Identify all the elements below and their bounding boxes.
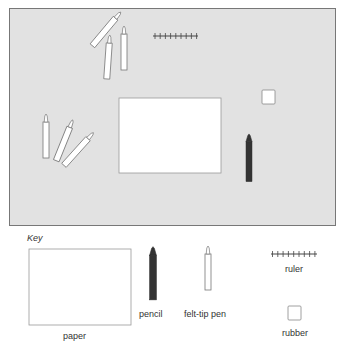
key-pencil-icon bbox=[150, 247, 157, 300]
rubber-icon bbox=[262, 90, 275, 104]
key-label-rubber: rubber bbox=[282, 328, 308, 338]
paper-icon bbox=[119, 98, 221, 173]
ruler-icon bbox=[153, 33, 198, 39]
felt-tip-pen-icon bbox=[104, 35, 113, 79]
key-label-ruler: ruler bbox=[285, 264, 303, 274]
key-label-paper: paper bbox=[63, 331, 86, 341]
key-rubber-icon bbox=[288, 306, 301, 320]
key-label-felt-tip-pen: felt-tip pen bbox=[184, 309, 226, 319]
key-felt-tip-pen-icon bbox=[205, 246, 211, 290]
felt-tip-pen-icon bbox=[43, 114, 49, 158]
key-title: Key bbox=[27, 233, 43, 243]
diagram-canvas bbox=[0, 0, 351, 350]
felt-tip-pen-icon bbox=[90, 10, 123, 48]
pencil-icon bbox=[246, 134, 252, 182]
key-label-pencil: pencil bbox=[139, 309, 163, 319]
key-ruler-icon bbox=[271, 251, 317, 257]
felt-tip-pen-icon bbox=[121, 26, 127, 70]
key-paper-icon bbox=[29, 249, 131, 325]
